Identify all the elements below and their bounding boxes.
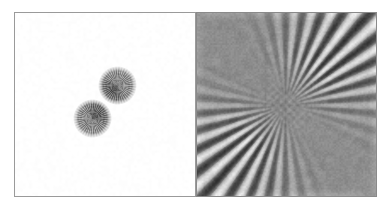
figure-root bbox=[0, 0, 388, 209]
right-panel-fringes[interactable] bbox=[196, 12, 377, 197]
fringe-pattern-image bbox=[197, 13, 376, 196]
particles-image bbox=[15, 13, 195, 196]
left-panel-particles[interactable] bbox=[14, 12, 196, 197]
